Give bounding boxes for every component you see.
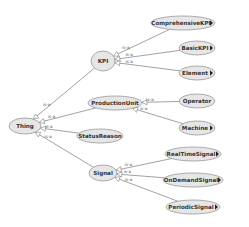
node-label: Element	[182, 70, 208, 76]
class-node-productionunit[interactable]: ProductionUnit	[88, 96, 142, 110]
class-node-kpi[interactable]: KPI	[91, 51, 115, 71]
class-node-basickpi[interactable]: BasicKPI	[179, 41, 215, 55]
node-label: KPI	[98, 58, 109, 64]
node-label: Machine	[182, 125, 209, 131]
node-label: BasicKPI	[181, 45, 208, 51]
edge-label: is-a	[122, 45, 130, 50]
node-label: Signal	[93, 170, 113, 177]
class-node-ondemandsignal[interactable]: OnDemandSignal	[163, 173, 223, 187]
node-label: PeriodicSignal	[168, 204, 213, 211]
edge-label: is-a	[124, 169, 132, 174]
class-node-signal[interactable]: Signal	[89, 165, 117, 181]
edge-label: is-a	[44, 134, 52, 139]
edge-label: is-a	[43, 102, 51, 107]
class-node-realtimesignal[interactable]: RealTimeSignal	[165, 147, 221, 161]
edge-label: is-a	[45, 124, 53, 129]
class-node-comprehensivekpi[interactable]: ComprehensiveKPI	[151, 16, 215, 30]
class-node-statusreason[interactable]: StatusReason	[77, 129, 123, 143]
node-label: StatusReason	[78, 133, 122, 139]
class-node-operator[interactable]: Operator	[179, 94, 215, 108]
ontology-graph-canvas: is-ais-ais-ais-ais-ais-ais-ais-ais-ais-a…	[0, 0, 249, 227]
canvas-background	[0, 0, 249, 227]
node-label: ProductionUnit	[91, 100, 139, 106]
edge-label: is-a	[125, 162, 133, 167]
class-node-machine[interactable]: Machine	[179, 121, 215, 135]
node-label: Thing	[16, 123, 34, 130]
edge-label: is-a	[125, 59, 133, 64]
class-node-thing[interactable]: Thing	[9, 118, 41, 134]
edge-label: is-a	[125, 177, 133, 182]
node-label: Operator	[183, 98, 212, 105]
edge-label: is-a	[125, 52, 133, 57]
edge-label: is-a	[146, 97, 154, 102]
class-node-element[interactable]: Element	[179, 66, 215, 80]
node-label: ComprehensiveKPI	[151, 20, 210, 27]
edge-label: is-a	[140, 106, 148, 111]
edge-label: is-a	[48, 114, 56, 119]
node-label: OnDemandSignal	[164, 177, 218, 184]
node-label: RealTimeSignal	[167, 151, 216, 158]
class-node-periodicsignal[interactable]: PeriodicSignal	[166, 200, 220, 214]
